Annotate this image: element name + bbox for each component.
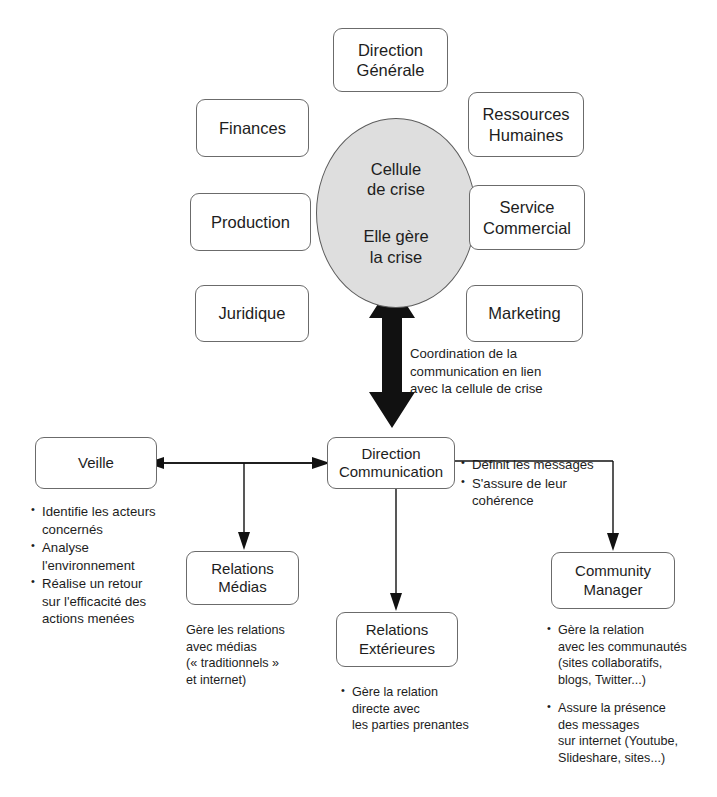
list-item: Identifie les acteurs concernés xyxy=(31,503,191,538)
relations-exterieures-bullets: Gère la relation directe avec les partie… xyxy=(341,684,516,735)
list-item: Gère la relation avec les communautés (s… xyxy=(547,622,715,689)
cellule-de-crise-ellipse: Cellule de crise Elle gère la crise xyxy=(316,118,476,308)
veille-bullets: Identifie les acteurs concernés Analyse … xyxy=(31,503,191,629)
node-label: Direction Communication xyxy=(339,445,443,482)
node-direction-communication[interactable]: Direction Communication xyxy=(327,437,455,489)
node-label: Juridique xyxy=(219,303,286,323)
list-item: Assure la présence des messages sur inte… xyxy=(547,700,715,767)
node-label: Relations Extérieures xyxy=(359,621,435,658)
node-relations-medias[interactable]: Relations Médias xyxy=(186,551,299,605)
direction-communication-bullets: Définit les messages S'assure de leur co… xyxy=(461,456,641,511)
node-label: Finances xyxy=(219,118,286,138)
node-label: Community Manager xyxy=(575,562,651,599)
relations-medias-caption: Gère les relations avec médias (« tradit… xyxy=(186,622,326,689)
list-item: Gère la relation directe avec les partie… xyxy=(341,684,516,734)
arrowhead-community-manager xyxy=(607,533,619,551)
node-label: Direction Générale xyxy=(357,40,425,80)
node-ressources-humaines[interactable]: Ressources Humaines xyxy=(468,92,584,157)
node-label: Service Commercial xyxy=(483,197,571,237)
node-label: Production xyxy=(211,212,290,232)
list-item: Analyse l'environnement xyxy=(31,539,191,574)
list-item: Réalise un retour sur l'efficacité des a… xyxy=(31,575,191,628)
community-manager-bullets: Gère la relation avec les communautés (s… xyxy=(547,622,715,768)
list-item: S'assure de leur cohérence xyxy=(461,475,641,510)
diagram-canvas: Cellule de crise Elle gère la crise Dire… xyxy=(0,0,717,797)
node-community-manager[interactable]: Community Manager xyxy=(551,552,675,609)
arrowhead-relations-exterieures xyxy=(390,593,402,611)
list-item: Définit les messages xyxy=(461,456,641,474)
node-production[interactable]: Production xyxy=(190,193,311,251)
cellule-de-crise-label: Cellule de crise xyxy=(367,159,425,200)
arrowhead-relations-medias xyxy=(238,532,250,550)
node-veille[interactable]: Veille xyxy=(35,437,157,489)
node-relations-exterieures[interactable]: Relations Extérieures xyxy=(336,612,458,667)
node-juridique[interactable]: Juridique xyxy=(195,285,309,342)
node-service-commercial[interactable]: Service Commercial xyxy=(469,185,585,250)
node-label: Veille xyxy=(78,454,114,472)
node-direction-generale[interactable]: Direction Générale xyxy=(333,28,448,92)
node-label: Marketing xyxy=(488,303,560,323)
node-finances[interactable]: Finances xyxy=(196,99,309,157)
elle-gere-la-crise-label: Elle gère la crise xyxy=(363,226,428,267)
node-label: Ressources Humaines xyxy=(482,104,569,144)
coordination-note: Coordination de la communication en lien… xyxy=(410,345,640,398)
node-label: Relations Médias xyxy=(211,560,274,597)
node-marketing[interactable]: Marketing xyxy=(466,285,583,342)
